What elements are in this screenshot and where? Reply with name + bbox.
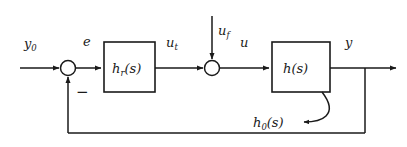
label-block-plant: h(s) [283,61,308,76]
label-feedback-transfer: h0(s) [253,115,284,132]
label-feedback-sign: − [76,83,89,101]
label-output-signal: y [344,35,353,50]
label-block-controller: hr(s) [112,61,141,78]
summing-junction-input [205,61,220,76]
label-feedforward-signal: uf [218,23,231,40]
feedback-annotation-arrow-icon [304,92,329,122]
block-diagram-svg: y0 e − hr(s) ut uf u h(s) y h0(s) [0,0,407,147]
label-reference-signal: y0 [23,36,37,53]
label-plant-input-signal: u [240,35,248,50]
label-controller-output-signal: ut [166,35,178,52]
summing-junction-error [61,61,76,76]
label-error-signal: e [83,34,91,49]
block-diagram-canvas: y0 e − hr(s) ut uf u h(s) y h0(s) [0,0,407,147]
